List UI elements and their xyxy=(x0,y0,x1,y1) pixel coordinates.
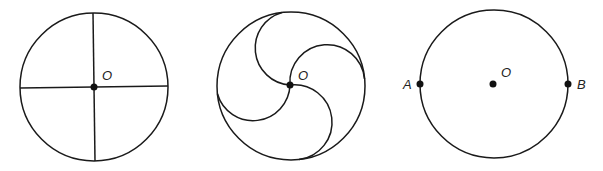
point-b xyxy=(565,81,572,88)
center-label: O xyxy=(501,65,511,80)
center-point xyxy=(490,81,497,88)
figure-circle-diameters: O xyxy=(20,13,168,161)
point-b-label: B xyxy=(577,77,586,92)
point-a xyxy=(417,81,424,88)
point-a-label: A xyxy=(402,77,412,92)
center-point xyxy=(287,82,294,89)
center-label: O xyxy=(298,68,308,83)
pinwheel-arc-top xyxy=(255,13,290,86)
center-label: O xyxy=(102,68,112,83)
pinwheel-arc-left xyxy=(218,85,291,121)
diagram-canvas: O O A B O xyxy=(0,0,603,171)
center-point xyxy=(91,84,98,91)
pinwheel-arc-bottom xyxy=(290,85,332,160)
figure-circle-points: A B O xyxy=(402,10,586,158)
figure-circle-pinwheel: O xyxy=(217,12,365,160)
